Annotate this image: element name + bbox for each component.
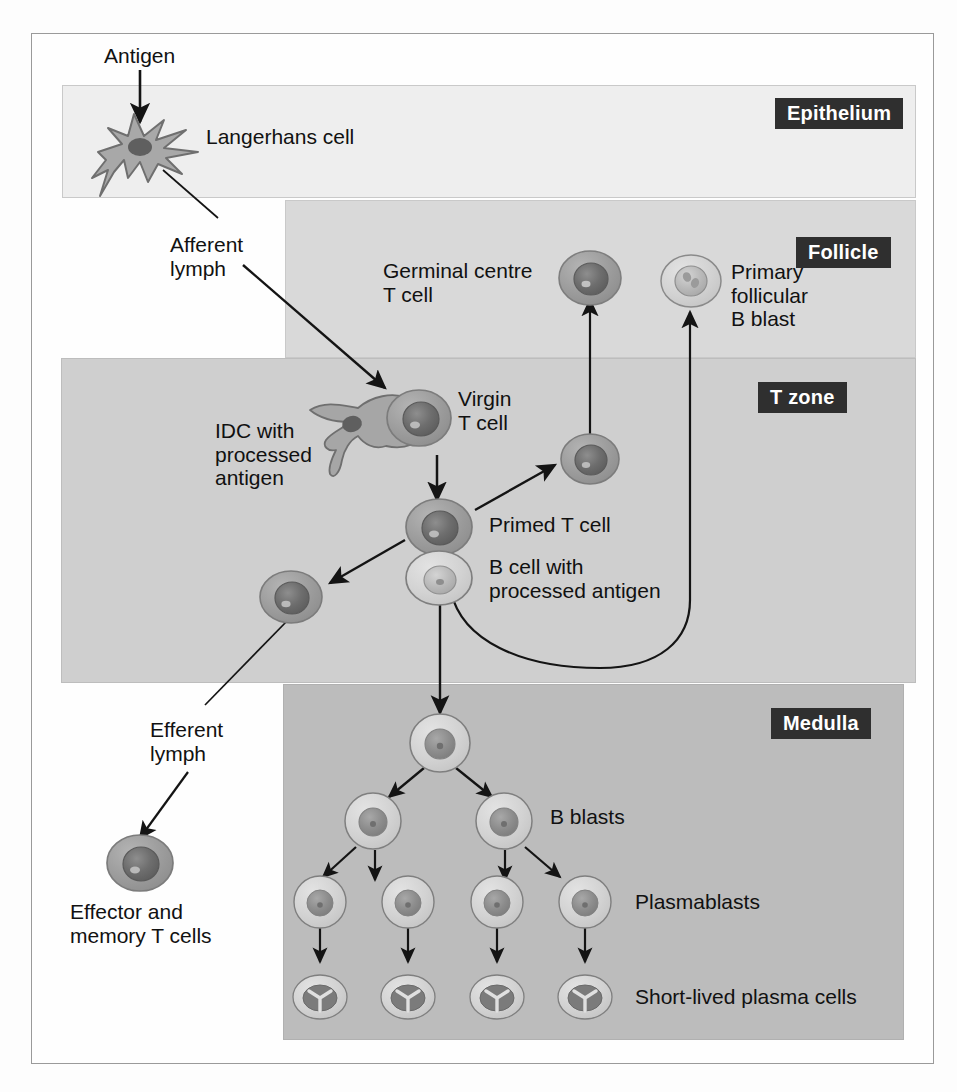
cell-effector-t-cell-tzone	[258, 568, 324, 626]
cell-germinal-centre-t-cell	[557, 248, 623, 308]
cell-b-cell-with-processed-antigen	[404, 548, 474, 608]
cell-effector-and-memory-t-cell	[105, 832, 175, 894]
cell-medulla-founder-b-blast	[406, 712, 474, 774]
cell-gc-bound-t-cell	[559, 431, 621, 487]
cell-langerhans	[78, 100, 208, 205]
label-effector-and-memory-t-cells: Effector and memory T cells	[70, 900, 212, 947]
cell-primary-follicular-b-blast	[659, 252, 723, 310]
cell-b-blast-2	[472, 791, 536, 851]
cell-short-lived-plasma-cell-2	[379, 972, 437, 1022]
label-idc-with-processed-antigen: IDC with processed antigen	[215, 419, 312, 490]
cell-idc-with-processed-antigen	[300, 378, 470, 488]
cell-short-lived-plasma-cell-3	[468, 972, 526, 1022]
zone-badge-medulla: Medulla	[771, 708, 871, 739]
label-langerhans-cell: Langerhans cell	[206, 125, 354, 149]
label-b-blasts: B blasts	[550, 805, 625, 829]
label-efferent-lymph: Efferent lymph	[150, 718, 223, 765]
label-primary-follicular-b-blast: Primary follicular B blast	[731, 260, 808, 331]
label-virgin-t-cell: Virgin T cell	[458, 387, 511, 434]
label-plasmablasts: Plasmablasts	[635, 890, 760, 914]
zone-badge-tzone: T zone	[758, 382, 847, 413]
cell-b-blast-1	[341, 791, 405, 851]
label-short-lived-plasma-cells: Short-lived plasma cells	[635, 985, 857, 1009]
zone-badge-epithelium: Epithelium	[775, 98, 903, 129]
cell-short-lived-plasma-cell-1	[291, 972, 349, 1022]
zone-badge-follicle: Follicle	[796, 237, 891, 268]
label-primed-t-cell: Primed T cell	[489, 513, 611, 537]
label-germinal-centre-t-cell: Germinal centre T cell	[383, 259, 532, 306]
cell-plasmablast-3	[467, 874, 527, 930]
figure-canvas: Epithelium Follicle T zone Medulla Antig…	[0, 0, 957, 1092]
label-b-cell-with-processed-antigen: B cell with processed antigen	[489, 555, 661, 602]
label-antigen: Antigen	[104, 44, 175, 68]
cell-plasmablast-2	[378, 874, 438, 930]
label-afferent-lymph: Afferent lymph	[170, 233, 243, 280]
cell-plasmablast-4	[555, 874, 615, 930]
cell-short-lived-plasma-cell-4	[556, 972, 614, 1022]
cell-plasmablast-1	[290, 874, 350, 930]
